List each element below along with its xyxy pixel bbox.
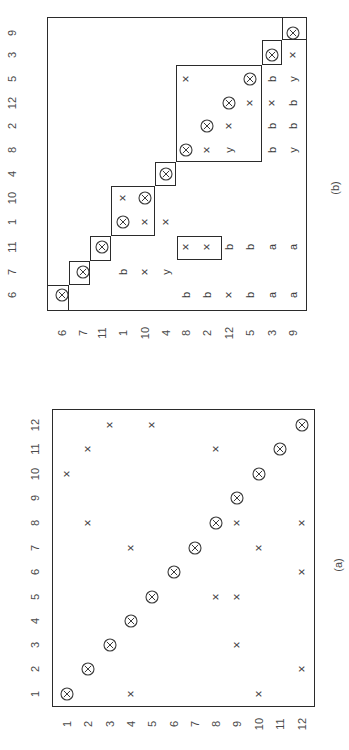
cross-mark: ×	[296, 568, 308, 575]
cross-mark: ×	[223, 122, 235, 129]
matrix-entry-b: b	[288, 100, 299, 106]
matrix-entry-a: a	[267, 292, 278, 298]
circled-x-icon	[273, 442, 287, 456]
row-label: 6	[7, 292, 18, 298]
row-label: 4	[30, 618, 41, 624]
cross-mark: ×	[296, 519, 308, 526]
circled-x-icon	[209, 516, 223, 530]
row-label: 1	[30, 691, 41, 697]
cross-mark: ×	[160, 218, 172, 225]
matrix-entry-y: y	[161, 269, 172, 275]
cross-mark: ×	[146, 421, 158, 428]
column-label: 9	[288, 330, 299, 336]
column-label: 7	[190, 721, 201, 727]
circled-x-icon	[295, 418, 309, 432]
column-label: 10	[140, 327, 151, 339]
column-label: 8	[211, 721, 222, 727]
column-label: 10	[254, 718, 265, 730]
cross-mark: ×	[223, 291, 235, 298]
column-label: 1	[118, 330, 129, 336]
matrix-entry-a: a	[288, 292, 299, 298]
circled-x-icon	[179, 143, 193, 157]
column-label: 12	[224, 327, 235, 339]
cross-mark: ×	[125, 544, 137, 551]
row-label: 3	[30, 642, 41, 648]
circled-x-icon	[60, 687, 74, 701]
cross-mark: ×	[82, 519, 94, 526]
matrix-entry-b: b	[118, 269, 129, 275]
row-label: 10	[30, 468, 41, 480]
row-label: 4	[7, 171, 18, 177]
column-label: 5	[245, 330, 256, 336]
matrix-entry-y: y	[288, 147, 299, 153]
row-label: 7	[7, 269, 18, 275]
circled-x-icon	[188, 541, 202, 555]
row-label: 2	[7, 123, 18, 129]
column-label: 7	[78, 330, 89, 336]
matrix-entry-b: b	[267, 147, 278, 153]
circled-x-icon	[138, 191, 152, 205]
cross-mark: ×	[180, 243, 192, 250]
row-label: 8	[7, 147, 18, 153]
figure-canvas: 123456789101112123456789101112××××××××××…	[0, 0, 349, 750]
matrix-entry-b: b	[181, 292, 192, 298]
row-label: 8	[30, 520, 41, 526]
circled-x-icon	[159, 167, 173, 181]
row-label: 5	[30, 594, 41, 600]
matrix-entry-b: b	[245, 292, 256, 298]
column-label: 11	[275, 718, 286, 729]
circled-x-icon	[243, 72, 257, 86]
matrix-entry-y: y	[224, 147, 235, 153]
column-label: 6	[57, 330, 68, 336]
cross-mark: ×	[117, 194, 129, 201]
cross-mark: ×	[244, 99, 256, 106]
panel-caption-b: (b)	[330, 181, 341, 194]
circled-x-icon	[55, 288, 69, 302]
cross-mark: ×	[296, 665, 308, 672]
column-label: 5	[147, 721, 158, 727]
cross-mark: ×	[61, 470, 73, 477]
cross-mark: ×	[231, 641, 243, 648]
matrix-entry-b: b	[267, 123, 278, 129]
cross-mark: ×	[104, 421, 116, 428]
matrix-entry-b: b	[288, 123, 299, 129]
matrix-entry-b: b	[202, 292, 213, 298]
column-label: 6	[169, 721, 180, 727]
column-label: 4	[126, 721, 137, 727]
circled-x-icon	[252, 467, 266, 481]
row-label: 2	[30, 666, 41, 672]
cross-mark: ×	[180, 75, 192, 82]
cross-mark: ×	[287, 51, 299, 58]
circled-x-icon	[222, 96, 236, 110]
circled-x-icon	[230, 491, 244, 505]
circled-x-icon	[145, 590, 159, 604]
matrix-entry-b: b	[245, 244, 256, 250]
row-label: 9	[7, 30, 18, 36]
circled-x-icon	[200, 119, 214, 133]
matrix-entry-a: a	[288, 244, 299, 250]
matrix-entry-y: y	[288, 76, 299, 82]
cross-mark: ×	[201, 146, 213, 153]
cross-mark: ×	[82, 445, 94, 452]
circled-x-icon	[167, 565, 181, 579]
panel-caption-a: (a)	[333, 558, 344, 571]
circled-x-icon	[95, 240, 109, 254]
column-label: 1	[62, 721, 73, 727]
row-label: 9	[30, 495, 41, 501]
row-label: 1	[7, 219, 18, 225]
column-label: 3	[105, 721, 116, 727]
column-label: 2	[202, 330, 213, 336]
circled-x-icon	[286, 26, 300, 40]
cross-mark: ×	[253, 544, 265, 551]
circled-x-icon	[124, 614, 138, 628]
circled-x-icon	[265, 48, 279, 62]
cross-mark: ×	[139, 218, 151, 225]
cross-mark: ×	[125, 690, 137, 697]
circled-x-icon	[81, 662, 95, 676]
column-label: 11	[97, 327, 108, 338]
row-label: 12	[30, 419, 41, 431]
row-label: 7	[30, 545, 41, 551]
row-label: 6	[30, 569, 41, 575]
row-label: 5	[7, 76, 18, 82]
circled-x-icon	[76, 265, 90, 279]
